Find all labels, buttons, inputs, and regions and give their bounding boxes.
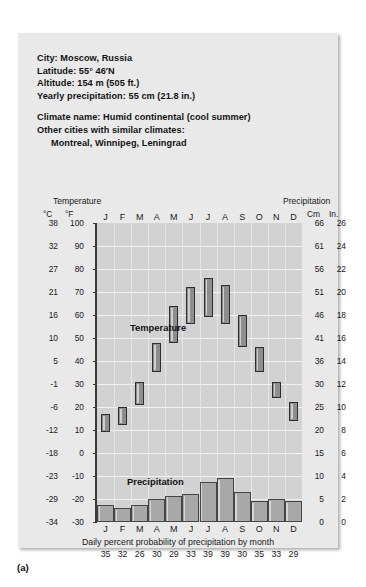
tick-label-fahrenheit: 20 [62, 402, 84, 412]
temperature-series-label: Temperature [130, 322, 186, 333]
month-label: N [268, 523, 285, 536]
tick-label-in: 2 [326, 494, 346, 504]
precipitation-probability-value: 39 [199, 549, 216, 559]
month-labels-bottom: JFMAMJJASOND [97, 523, 302, 536]
temperature-range-bar [255, 347, 264, 372]
axis-tick-mark [93, 499, 97, 500]
gridline-vertical [251, 223, 252, 522]
tick-label-celsius: 21 [38, 287, 58, 297]
temperature-range-bar [101, 414, 110, 432]
month-label: J [97, 523, 114, 536]
temperature-axis-caption: Temperature [53, 196, 101, 206]
tick-label-fahrenheit: 60 [62, 310, 84, 320]
tick-label-fahrenheit: 70 [62, 287, 84, 297]
info-climate-name: Climate name: Humid continental (cool su… [37, 111, 322, 124]
gridline-vertical [217, 223, 218, 522]
temperature-range-bar [221, 285, 230, 324]
tick-label-celsius: -34 [38, 517, 58, 527]
tick-label-cm: 56 [304, 264, 324, 274]
month-label: M [165, 523, 182, 536]
tick-label-in: 0 [326, 517, 346, 527]
temperature-range-bar [272, 382, 281, 398]
tick-label-in: 8 [326, 425, 346, 435]
tick-label-fahrenheit: -20 [62, 494, 84, 504]
precipitation-bar [251, 501, 268, 522]
precipitation-bar [200, 482, 217, 522]
month-label: M [131, 523, 148, 536]
precipitation-probability-value: 30 [234, 549, 251, 559]
axis-tick-mark [93, 361, 97, 362]
month-label: J [182, 523, 199, 536]
info-latitude: Latitude: 55° 46′N [37, 65, 322, 78]
month-label: A [148, 523, 165, 536]
tick-label-cm: 20 [304, 425, 324, 435]
tick-label-in: 18 [326, 310, 346, 320]
gridline-vertical [285, 223, 286, 522]
axis-tick-mark [93, 315, 97, 316]
info-city: City: Moscow, Russia [37, 52, 322, 65]
tick-label-cm: 36 [304, 356, 324, 366]
station-info-block: City: Moscow, Russia Latitude: 55° 46′N … [37, 52, 322, 149]
precipitation-probability-value: 32 [114, 549, 131, 559]
precipitation-probability-value: 30 [148, 549, 165, 559]
info-similar-label: Other cities with similar climates: [37, 124, 322, 137]
tick-label-celsius: -18 [38, 448, 58, 458]
gridline-vertical [114, 223, 115, 522]
axis-tick-mark [93, 476, 97, 477]
tick-label-fahrenheit: 90 [62, 241, 84, 251]
tick-label-fahrenheit: 50 [62, 333, 84, 343]
precipitation-bar [114, 508, 131, 522]
tick-label-in: 4 [326, 471, 346, 481]
precipitation-probability-value: 33 [182, 549, 199, 559]
tick-label-cm: 15 [304, 448, 324, 458]
tick-label-fahrenheit: 30 [62, 379, 84, 389]
tick-label-cm: 5 [304, 494, 324, 504]
axis-tick-mark [93, 292, 97, 293]
axis-tick-mark [93, 269, 97, 270]
tick-label-fahrenheit: 80 [62, 264, 84, 274]
month-label: A [217, 523, 234, 536]
month-label: S [234, 523, 251, 536]
precipitation-series-label: Precipitation [127, 476, 184, 487]
tick-label-in: 24 [326, 241, 346, 251]
gridline-vertical [268, 223, 269, 522]
tick-label-celsius: -6 [38, 402, 58, 412]
precipitation-bar [182, 494, 199, 522]
tick-label-in: 16 [326, 333, 346, 343]
month-label: D [285, 523, 302, 536]
precipitation-bar [285, 501, 302, 522]
precipitation-axis-caption: Precipitation [283, 196, 330, 206]
temperature-range-bar [238, 315, 247, 347]
tick-label-fahrenheit: 10 [62, 425, 84, 435]
precipitation-bar [165, 496, 182, 522]
tick-label-celsius: 32 [38, 241, 58, 251]
info-spacer [37, 102, 322, 111]
precipitation-probability-value: 33 [268, 549, 285, 559]
tick-label-fahrenheit: 0 [62, 448, 84, 458]
precipitation-bar [148, 499, 165, 522]
month-label: O [251, 523, 268, 536]
precipitation-probability-value: 35 [251, 549, 268, 559]
precipitation-probability-value: 39 [217, 549, 234, 559]
precipitation-bar [131, 505, 148, 522]
tick-label-in: 26 [326, 218, 346, 228]
tick-label-celsius: -1 [38, 379, 58, 389]
tick-label-cm: 46 [304, 310, 324, 320]
precipitation-bar [97, 505, 114, 522]
precipitation-probability-value: 29 [165, 549, 182, 559]
footer-caption: Daily percent probability of precipitati… [18, 537, 338, 547]
info-altitude: Altitude: 154 m (505 ft.) [37, 77, 322, 90]
tick-label-cm: 41 [304, 333, 324, 343]
temperature-range-bar [152, 343, 161, 373]
tick-label-celsius: -23 [38, 471, 58, 481]
climograph-card: City: Moscow, Russia Latitude: 55° 46′N … [18, 33, 338, 548]
tick-label-cm: 66 [304, 218, 324, 228]
temperature-range-bar [135, 382, 144, 405]
gridline-vertical [234, 223, 235, 522]
tick-label-cm: 10 [304, 471, 324, 481]
temperature-range-bar [118, 407, 127, 425]
axis-tick-mark [93, 384, 97, 385]
tick-label-in: 20 [326, 287, 346, 297]
tick-label-fahrenheit: 100 [62, 218, 84, 228]
month-label: F [114, 523, 131, 536]
